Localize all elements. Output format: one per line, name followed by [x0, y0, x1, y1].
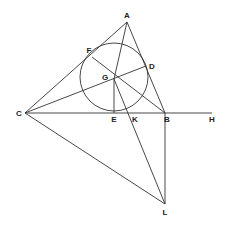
segment-AB [127, 22, 165, 113]
label-K: K [132, 115, 138, 124]
label-F: F [87, 46, 92, 55]
label-A: A [124, 11, 130, 20]
label-G: G [102, 73, 108, 82]
segment-CA [25, 22, 127, 113]
label-C: C [16, 109, 22, 118]
label-L: L [163, 208, 168, 217]
label-E: E [111, 115, 117, 124]
segment-AG [114, 22, 127, 79]
segment-GL [114, 79, 165, 204]
label-B: B [164, 115, 170, 124]
label-D: D [149, 62, 155, 71]
segment-CD [25, 66, 146, 113]
segment-CL [25, 113, 165, 204]
geometry-diagram: A F D G C E K B H L [0, 0, 226, 232]
label-H: H [209, 115, 215, 124]
